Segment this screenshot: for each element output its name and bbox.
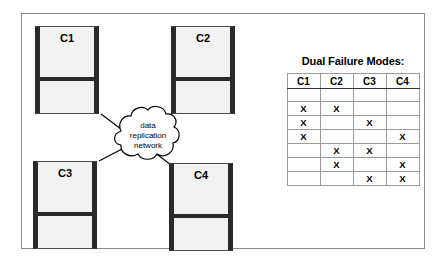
table-cell-r4-c1: [287, 144, 320, 158]
node-c1-label: C1: [40, 32, 94, 44]
table-header-c2: C2: [320, 74, 353, 89]
cloud-label-line2: replication: [113, 131, 183, 141]
network-diagram: data replication network C1 C2 C3 C4: [21, 13, 271, 249]
table-cell-r2-c1: X: [287, 116, 320, 130]
table-cell-r6-c4: X: [386, 172, 419, 186]
table-row: XX: [287, 158, 419, 172]
table-cell-r1-c1: X: [287, 102, 320, 116]
table-header-c3: C3: [353, 74, 386, 89]
table-row: XX: [287, 116, 419, 130]
node-c3[interactable]: C3: [33, 161, 97, 249]
table-body: XXXXXXXXXXXX: [287, 89, 419, 186]
cloud-label-line3: network: [113, 141, 183, 151]
failure-modes-table: C1 C2 C3 C4 XXXXXXXXXXXX: [287, 73, 420, 186]
table-header-c4: C4: [386, 74, 419, 89]
table-cell-r5-c4: X: [386, 158, 419, 172]
node-c2-label: C2: [176, 32, 230, 44]
failure-modes-panel: Dual Failure Modes: C1 C2 C3 C4 XXXXXXXX…: [282, 55, 424, 186]
node-c1-divider: [40, 77, 94, 81]
panel-title: Dual Failure Modes:: [282, 55, 424, 67]
table-row: [287, 89, 419, 102]
table-cell-r1-c3: [353, 102, 386, 116]
node-c1[interactable]: C1: [35, 26, 99, 114]
table-cell-r3-c2: [320, 130, 353, 144]
table-cell-r3-c3: [353, 130, 386, 144]
node-c2[interactable]: C2: [171, 26, 235, 114]
table-cell-r2-c3: X: [353, 116, 386, 130]
table-row: XX: [287, 102, 419, 116]
table-cell-r0-c1: [287, 89, 320, 102]
table-cell-r1-c2: X: [320, 102, 353, 116]
table-cell-r5-c3: [353, 158, 386, 172]
cloud-label: data replication network: [113, 121, 183, 151]
table-cell-r2-c4: [386, 116, 419, 130]
table-cell-r5-c2: X: [320, 158, 353, 172]
node-c3-divider: [38, 212, 92, 216]
table-cell-r4-c2: X: [320, 144, 353, 158]
table-cell-r0-c3: [353, 89, 386, 102]
node-c4-label: C4: [174, 169, 228, 181]
table-header-row: C1 C2 C3 C4: [287, 74, 419, 89]
node-c4[interactable]: C4: [169, 163, 233, 251]
table-cell-r6-c1: [287, 172, 320, 186]
node-c3-label: C3: [38, 167, 92, 179]
table-row: XX: [287, 130, 419, 144]
table-cell-r0-c4: [386, 89, 419, 102]
table-cell-r6-c2: [320, 172, 353, 186]
table-row: XX: [287, 172, 419, 186]
table-header-c1: C1: [287, 74, 320, 89]
diagram-canvas: data replication network C1 C2 C3 C4 Dua…: [0, 0, 444, 273]
table-cell-r3-c1: X: [287, 130, 320, 144]
table-cell-r4-c4: [386, 144, 419, 158]
table-cell-r3-c4: X: [386, 130, 419, 144]
table-cell-r6-c3: X: [353, 172, 386, 186]
table-row: XX: [287, 144, 419, 158]
node-c2-divider: [176, 77, 230, 81]
node-c4-divider: [174, 214, 228, 218]
table-cell-r5-c1: [287, 158, 320, 172]
table-cell-r1-c4: [386, 102, 419, 116]
table-cell-r0-c2: [320, 89, 353, 102]
table-cell-r2-c2: [320, 116, 353, 130]
cloud-label-line1: data: [113, 121, 183, 131]
table-cell-r4-c3: X: [353, 144, 386, 158]
